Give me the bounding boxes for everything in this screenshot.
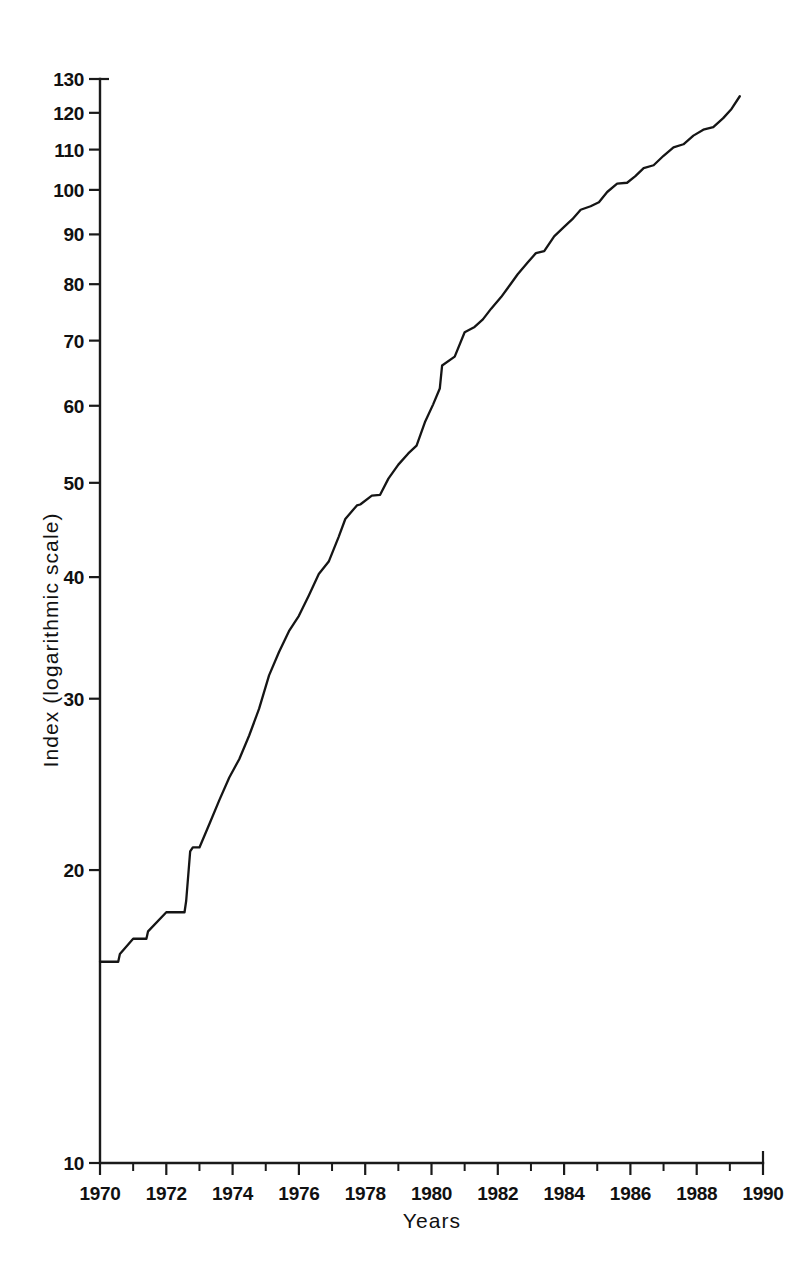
x-tick-label: 1970: [79, 1183, 120, 1204]
data-series-group: [100, 96, 740, 961]
y-tick-label: 20: [63, 860, 84, 881]
x-axis-title: Years: [403, 1209, 461, 1232]
y-tick-label: 70: [63, 331, 84, 352]
y-tick-label: 130: [53, 69, 84, 90]
x-tick-group: [100, 1163, 763, 1175]
x-tick-label: 1978: [345, 1183, 386, 1204]
y-tick-label: 80: [63, 274, 84, 295]
y-tick-label: 110: [54, 140, 84, 161]
x-tick-label: 1984: [544, 1183, 586, 1204]
y-tick-label: 30: [63, 689, 84, 710]
y-tick-label: 50: [63, 473, 84, 494]
y-axis-title: Index (logarithmic scale): [39, 512, 62, 767]
x-tick-label: 1988: [676, 1183, 717, 1204]
x-tick-label: 1976: [278, 1183, 319, 1204]
y-tick-label: 90: [63, 224, 84, 245]
x-tick-label-group: 1970197219741976197819801982198419861988…: [79, 1183, 783, 1204]
y-tick-label: 40: [63, 567, 84, 588]
x-tick-label: 1980: [411, 1183, 452, 1204]
y-tick-label: 120: [53, 103, 84, 124]
x-tick-label: 1974: [212, 1183, 254, 1204]
y-tick-label: 60: [63, 396, 84, 417]
x-tick-label: 1986: [610, 1183, 651, 1204]
chart-figure: 130120110100908070605040302010 197019721…: [0, 0, 799, 1286]
x-tick-label: 1982: [477, 1183, 518, 1204]
x-tick-label: 1972: [146, 1183, 187, 1204]
y-tick-group: [89, 79, 100, 1163]
axis-spines: [100, 79, 763, 1163]
y-tick-label: 10: [63, 1153, 84, 1174]
data-series-line: [100, 96, 740, 961]
line-chart-svg: 130120110100908070605040302010 197019721…: [0, 0, 799, 1286]
y-tick-label: 100: [53, 180, 84, 201]
axes-group: [100, 79, 763, 1163]
x-tick-label: 1990: [742, 1183, 783, 1204]
